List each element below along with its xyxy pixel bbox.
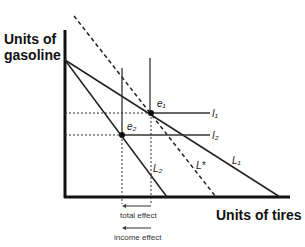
- label-lstar: L*: [196, 160, 207, 171]
- budget-line-l1: [65, 60, 280, 197]
- x-axis-label: Units of tires: [216, 207, 302, 223]
- budget-line-lstar: [74, 16, 216, 197]
- total-effect-label: total effect: [120, 211, 157, 220]
- total-effect-arrowhead-icon: [122, 204, 126, 208]
- point-e1: [148, 110, 154, 116]
- y-axis-label-line1: Units of: [4, 31, 61, 47]
- y-axis-label-line2: gasoline: [4, 47, 61, 63]
- label-i1: I₁: [212, 108, 218, 119]
- label-e2: e₂: [127, 121, 137, 132]
- budget-line-l2: [65, 60, 167, 197]
- label-l2: L₂: [153, 163, 163, 174]
- income-effect-arrowhead-icon: [122, 226, 126, 230]
- label-l1: L₁: [232, 155, 241, 166]
- point-e2: [119, 132, 125, 138]
- income-effect-label: income effect: [114, 233, 161, 242]
- label-e1: e₁: [157, 98, 166, 109]
- label-i2: I₂: [212, 130, 219, 141]
- y-axis-label: Units of gasoline: [4, 31, 61, 63]
